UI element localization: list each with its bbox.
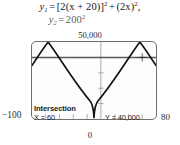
intersection-y-value: Y = 40,000 [105,113,140,122]
intersection-title: Intersection [34,104,76,113]
intersection-x-value: X = 60 [34,113,55,122]
equation-y2: y2=2002 [0,14,180,27]
equation-y1: y1=[2(x + 20)]2+(2x)2, [0,1,180,14]
equation-block: y1=[2(x + 20)]2+(2x)2, y2=2002 [0,1,180,26]
y-max-label: 50,000 [0,30,180,40]
equation-y1-term2: (2x) [116,1,134,12]
equation-y2-exponent: 2 [82,13,85,20]
x-min-label: −100 [2,110,21,120]
figure-root: y1=[2(x + 20)]2+(2x)2, y2=2002 50,000 −1… [0,0,180,145]
curve-y1-left-branch [32,42,48,66]
intersection-cursor-icon [138,53,146,61]
origin-label: 0 [0,130,180,140]
x-max-label: 80 [161,112,170,122]
equation-y1-equals: = [48,1,57,12]
equation-y2-value: 200 [66,14,82,25]
equation-y1-comma: , [138,1,141,12]
equation-y1-term1: [2(x + 20)] [57,1,104,12]
equation-y2-equals: = [57,14,66,25]
